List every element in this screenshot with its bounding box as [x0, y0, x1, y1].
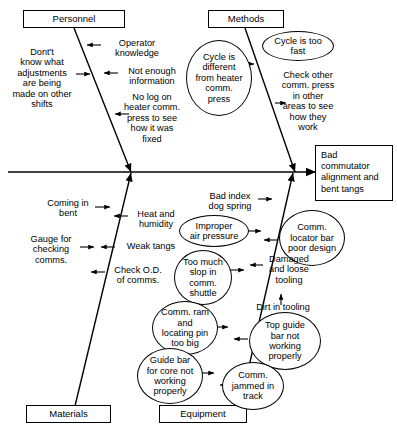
cause-gauge-for-checking-comms: Gauge for checking comms. — [22, 234, 80, 265]
effect-label: Bad commutator alignment and bent tangs — [321, 150, 379, 194]
cause-too-much-slop-comm-shuttle: Too much slop in comm. shuttle — [174, 250, 232, 305]
category-label-personnel: Personnel — [53, 14, 96, 24]
cause-dont-know-adjustments: Dont't know what adjustments are being m… — [8, 47, 76, 110]
category-box-methods[interactable]: Methods — [208, 10, 284, 28]
cause-top-guide-bar-not-working: Top guide bar not working properly — [249, 312, 321, 370]
cause-comm-jammed-in-track: Comm. jammed in track — [222, 362, 284, 410]
cause-comm-ram-locating-pin-too-big: Comm. ram and locating pin too big — [152, 301, 218, 355]
cause-weak-tangs: Weak tangs — [117, 241, 185, 251]
cause-dirt-in-tooling: Dirt in tooling — [247, 302, 319, 312]
category-box-equipment[interactable]: Equipment — [159, 405, 247, 423]
cause-check-other-comm-press: Check other comm. press in other areas t… — [272, 70, 344, 133]
category-box-personnel[interactable]: Personnel — [23, 10, 125, 28]
effect-box[interactable]: Bad commutator alignment and bent tangs — [315, 145, 393, 201]
cause-cycle-different-heater: Cycle is different from heater comm. pre… — [186, 40, 252, 116]
category-label-methods: Methods — [228, 14, 264, 24]
cause-cycle-too-fast: Cycle is too fast — [262, 31, 334, 61]
category-label-materials: Materials — [49, 409, 88, 419]
cause-check-od-of-comms: Check O.D. of comms. — [106, 265, 170, 286]
cause-no-log-heater-comm-press: No log on heater comm. press to see how … — [116, 92, 188, 144]
cause-damaged-and-loose-tooling: Damaged and loose tooling — [262, 254, 316, 285]
category-label-equipment: Equipment — [180, 409, 225, 419]
cause-bad-index-dog-spring: Bad index dog spring — [200, 191, 260, 212]
fishbone-diagram: Personnel Methods Materials Equipment Ba… — [0, 0, 397, 439]
category-box-materials[interactable]: Materials — [26, 405, 111, 423]
cause-not-enough-information: Not enough information — [119, 66, 185, 87]
cause-heat-and-humidity: Heat and humidity — [128, 209, 184, 230]
cause-guide-bar-for-core-not-working: Guide bar for core not working properly — [137, 348, 203, 404]
cause-coming-in-bent: Coming in bent — [40, 198, 96, 219]
cause-improper-air-pressure: Improper air pressure — [179, 215, 249, 247]
cause-operator-knowledge: Operator knowledge — [102, 38, 172, 59]
